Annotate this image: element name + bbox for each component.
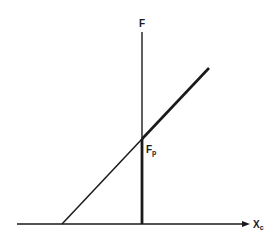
diagonal-line-upper — [142, 68, 209, 139]
label-f: F — [139, 18, 145, 29]
label-fp: Fp — [146, 144, 156, 157]
diagram-canvas: F Fp Xc — [0, 0, 275, 239]
label-xc-sub: c — [260, 224, 264, 231]
arrow-right-icon — [242, 221, 250, 227]
label-xc: Xc — [253, 219, 264, 231]
label-fp-sub: p — [152, 149, 156, 157]
diagonal-line-lower — [62, 139, 142, 224]
